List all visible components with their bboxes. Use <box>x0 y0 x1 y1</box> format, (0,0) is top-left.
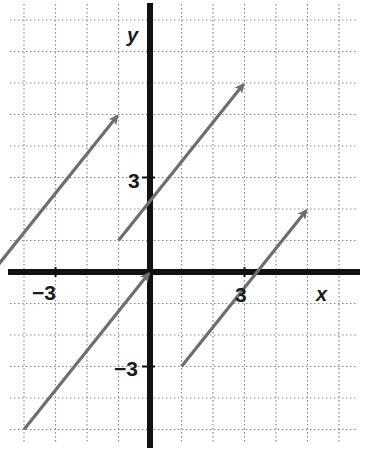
x-tick-label-neg3: −3 <box>32 281 56 304</box>
vectors <box>0 85 306 430</box>
vector-a-arrow <box>0 116 117 272</box>
y-tick-label-neg3: −3 <box>114 357 138 380</box>
x-tick-label-3: 3 <box>235 283 247 306</box>
x-axis-label: x <box>315 283 328 305</box>
vector-b-arrow <box>119 85 244 241</box>
grid-lines <box>10 4 358 442</box>
y-axis-label: y <box>126 24 139 46</box>
y-tick-label-3: 3 <box>128 169 140 192</box>
coordinate-plane: y x 3 −3 −3 3 <box>0 0 370 461</box>
